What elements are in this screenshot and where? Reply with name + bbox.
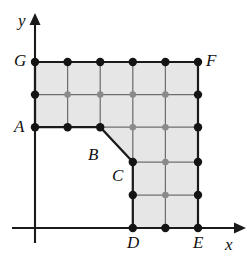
lattice-point-boundary: [194, 58, 202, 66]
lattice-point-boundary: [129, 224, 137, 232]
lattice-point-interior: [130, 124, 137, 131]
lattice-point-boundary: [129, 191, 137, 199]
lattice-point-boundary: [194, 158, 202, 166]
lattice-point-interior: [162, 124, 169, 131]
lattice-point-boundary: [63, 58, 71, 66]
arrow-right-icon: [234, 223, 246, 234]
lattice-point-boundary: [31, 123, 39, 131]
axis-label-x: x: [225, 236, 233, 253]
lattice-point-boundary: [63, 123, 71, 131]
lattice-point-boundary: [194, 224, 202, 232]
vertex-label-A: A: [14, 118, 24, 135]
lattice-point-boundary: [129, 58, 137, 66]
lattice-point-interior: [97, 91, 104, 98]
vertex-label-C: C: [112, 167, 123, 184]
vertex-label-E: E: [193, 234, 203, 251]
lattice-point-boundary: [31, 90, 39, 98]
lattice-point-boundary: [194, 123, 202, 131]
lattice-point-boundary: [161, 58, 169, 66]
lattice-point-interior: [162, 91, 169, 98]
figure-canvas: [0, 0, 247, 265]
lattice-point-boundary: [194, 90, 202, 98]
vertex-label-G: G: [14, 52, 26, 69]
lattice-point-interior: [162, 192, 169, 199]
lattice-polygon-figure: GFABCDE xy: [0, 0, 247, 265]
lattice-point-boundary: [129, 158, 137, 166]
arrow-up-icon: [30, 13, 41, 25]
lattice-point-boundary: [96, 58, 104, 66]
lattice-point-interior: [130, 91, 137, 98]
vertex-label-B: B: [88, 146, 98, 163]
lattice-point-boundary: [194, 191, 202, 199]
lattice-point-boundary: [31, 58, 39, 66]
vertex-label-D: D: [127, 234, 139, 251]
lattice-point-boundary: [96, 123, 104, 131]
vertex-label-F: F: [206, 52, 216, 69]
lattice-point-interior: [162, 159, 169, 166]
lattice-point-interior: [64, 91, 71, 98]
lattice-point-boundary: [161, 224, 169, 232]
axis-label-y: y: [18, 12, 26, 29]
